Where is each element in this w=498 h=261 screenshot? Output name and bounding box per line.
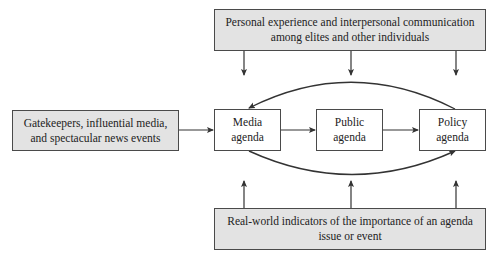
arc-media-to-policy: [249, 151, 455, 175]
real-world-indicators-box: Real-world indicators of the importance …: [214, 208, 486, 250]
personal-experience-box: Personal experience and interpersonal co…: [214, 9, 486, 51]
policy-agenda-box: Policy agenda: [419, 109, 486, 151]
public-agenda-box: Public agenda: [316, 109, 383, 151]
media-agenda-label: Media agenda: [231, 115, 264, 145]
gatekeepers-label: Gatekeepers, influential media, and spec…: [24, 116, 168, 146]
public-agenda-label: Public agenda: [333, 115, 366, 145]
media-agenda-box: Media agenda: [214, 109, 281, 151]
personal-experience-label: Personal experience and interpersonal co…: [225, 15, 474, 45]
policy-agenda-label: Policy agenda: [436, 115, 469, 145]
gatekeepers-box: Gatekeepers, influential media, and spec…: [12, 110, 179, 151]
real-world-indicators-label: Real-world indicators of the importance …: [227, 214, 473, 244]
arc-policy-to-media: [249, 82, 455, 109]
